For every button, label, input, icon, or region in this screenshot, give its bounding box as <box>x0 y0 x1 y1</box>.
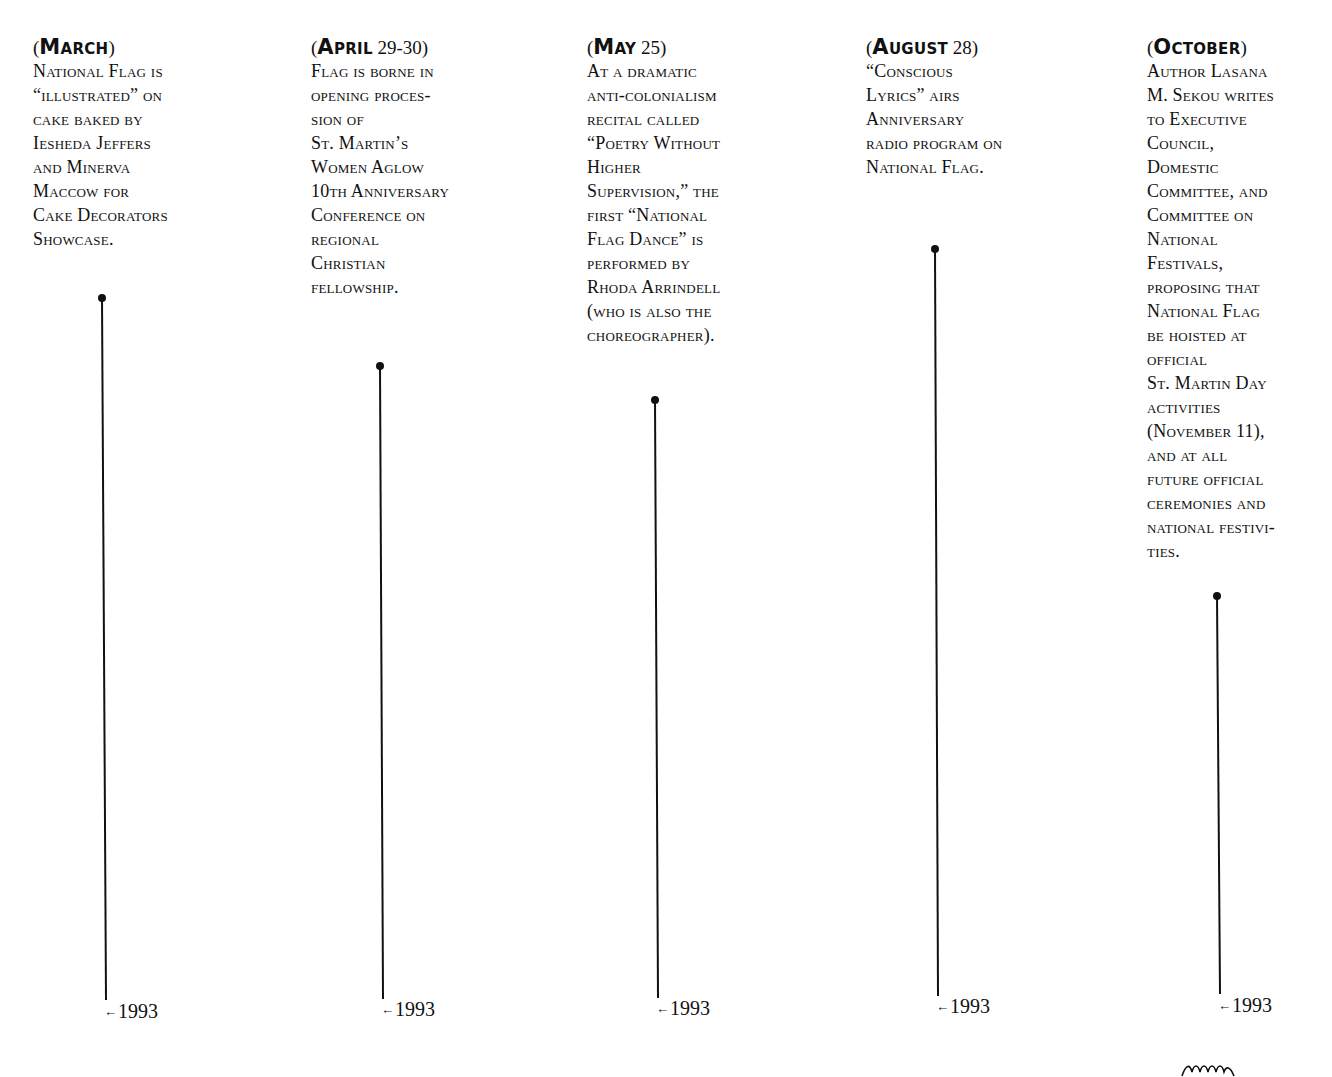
stem-march <box>98 294 106 1000</box>
stem-line <box>655 400 658 998</box>
timeline-stems <box>0 0 1332 1077</box>
stem-line <box>935 249 938 996</box>
stem-line <box>380 366 383 999</box>
decorative-ornament-icon <box>1180 1062 1250 1077</box>
stem-august <box>931 245 939 996</box>
arrow-left-icon: ← <box>381 1002 394 1017</box>
stem-line <box>1217 596 1220 994</box>
year-marker-march: ←1993 <box>104 1000 158 1023</box>
year-label: 1993 <box>950 995 990 1017</box>
arrow-left-icon: ← <box>1218 998 1231 1013</box>
arrow-left-icon: ← <box>656 1001 669 1016</box>
stem-may <box>651 396 659 998</box>
stem-line <box>102 298 106 1000</box>
year-marker-august: ←1993 <box>936 995 990 1018</box>
year-label: 1993 <box>670 997 710 1019</box>
year-label: 1993 <box>1232 994 1272 1016</box>
year-marker-april: ←1993 <box>381 998 435 1021</box>
arrow-left-icon: ← <box>104 1004 117 1019</box>
year-marker-may: ←1993 <box>656 997 710 1020</box>
year-marker-october: ←1993 <box>1218 994 1272 1017</box>
stem-october <box>1213 592 1221 994</box>
year-label: 1993 <box>118 1000 158 1022</box>
year-label: 1993 <box>395 998 435 1020</box>
arrow-left-icon: ← <box>936 999 949 1014</box>
stem-april <box>376 362 384 999</box>
